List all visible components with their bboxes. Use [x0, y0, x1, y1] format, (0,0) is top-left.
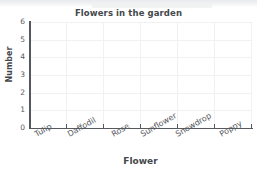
bars-layer — [29, 22, 252, 128]
y-tick-label-2: 2 — [12, 89, 25, 97]
x-tick-5 — [214, 124, 215, 129]
plot-area — [29, 22, 252, 128]
y-tick-label-1: 1 — [12, 106, 25, 114]
chart-figure: Flowers in the garden 6 5 4 3 2 1 0 Numb… — [0, 0, 257, 171]
x-tick-3 — [140, 124, 141, 129]
y-tick-label-0: 0 — [12, 124, 25, 132]
y-tick-label-4: 4 — [12, 53, 25, 61]
y-tick-label-5: 5 — [12, 36, 25, 44]
y-axis-title: Number — [5, 38, 14, 92]
x-tick-2 — [103, 124, 104, 129]
x-axis-title: Flower — [29, 156, 252, 166]
y-axis-line — [29, 21, 31, 129]
x-tick-1 — [66, 124, 67, 129]
y-tick-label-3: 3 — [12, 71, 25, 79]
y-tick-label-6: 6 — [12, 18, 25, 26]
y-axis-tick-labels: 6 5 4 3 2 1 0 — [12, 0, 25, 171]
x-tick-6 — [251, 124, 252, 129]
x-tick-0 — [29, 124, 30, 129]
chart-title: Flowers in the garden — [0, 8, 257, 18]
